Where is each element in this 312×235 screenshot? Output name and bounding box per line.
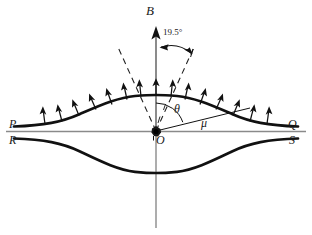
- normal-arrow: [40, 106, 47, 124]
- normal-arrow: [56, 104, 63, 121]
- b-field-label: B: [146, 4, 154, 17]
- normal-arrow: [152, 78, 159, 95]
- normal-arrow: [136, 79, 143, 96]
- theta-arc-tick-lower: [158, 117, 160, 124]
- theta-label: θ: [174, 103, 180, 115]
- angle-measure-arrowhead-left-icon: [160, 44, 169, 50]
- physics-diagram-svg: [0, 0, 312, 235]
- mu-label: μ: [201, 117, 207, 129]
- angle-measure-arrowhead-right-icon: [184, 47, 193, 54]
- origin-label: O: [156, 134, 165, 146]
- point-r-label: R: [9, 134, 16, 146]
- normal-arrow: [250, 104, 257, 121]
- figure-canvas: B 19.5° θ μ O P Q R S: [0, 0, 312, 235]
- angle-19-5-label: 19.5°: [163, 28, 182, 37]
- point-s-label: S: [289, 134, 295, 146]
- normal-arrow: [72, 99, 79, 115]
- normal-arrow: [89, 94, 96, 110]
- point-p-label: P: [9, 118, 16, 130]
- normal-arrow: [233, 99, 240, 115]
- theta-arc-tick-upper: [164, 104, 166, 110]
- normal-arrow: [216, 94, 224, 110]
- normal-arrow: [266, 106, 273, 124]
- point-q-label: Q: [288, 118, 297, 130]
